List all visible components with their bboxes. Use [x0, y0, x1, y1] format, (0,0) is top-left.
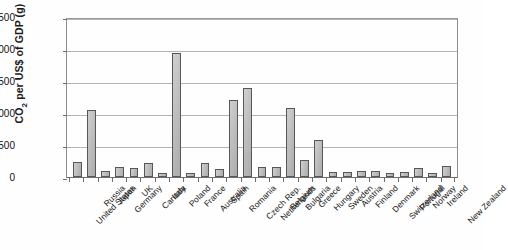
bar [101, 171, 110, 177]
bar-slot [70, 19, 84, 177]
bar [314, 140, 323, 177]
bar-slot [255, 19, 269, 177]
bar-slot [440, 19, 454, 177]
bar-slot [283, 19, 297, 177]
bar [400, 172, 409, 177]
bar-slot [141, 19, 155, 177]
bar-slot [184, 19, 198, 177]
bar-slot [241, 19, 255, 177]
bar-slot [354, 19, 368, 177]
bar-slot [326, 19, 340, 177]
y-axis-title-pre: CO [13, 107, 25, 123]
bar-slot [383, 19, 397, 177]
bar [286, 108, 295, 177]
bar [371, 171, 380, 177]
y-axis-tick-label: 1000 [0, 108, 15, 119]
y-axis-tick-label: 2500 [0, 12, 15, 23]
bar [130, 168, 139, 177]
bar [386, 173, 395, 177]
bar-slot [127, 19, 141, 177]
bar-slot [425, 19, 439, 177]
bar-slot [155, 19, 169, 177]
y-axis-title-post: per US$ of GDP (g) [13, 4, 25, 103]
y-axis-tick-mark [63, 51, 67, 52]
bar [201, 163, 210, 177]
bar-slot [397, 19, 411, 177]
bar [172, 53, 181, 177]
y-axis-tick-mark [63, 115, 67, 116]
y-axis-tick-label: 1500 [0, 76, 15, 87]
bar [186, 173, 195, 177]
bar-slot [340, 19, 354, 177]
bar-slot [198, 19, 212, 177]
bar-slot [312, 19, 326, 177]
bar [258, 167, 267, 177]
bars-container [67, 19, 457, 177]
plot-area [66, 18, 458, 178]
bar-slot [298, 19, 312, 177]
bar-slot [212, 19, 226, 177]
bar [87, 110, 96, 177]
bar [343, 172, 352, 177]
bar-slot [170, 19, 184, 177]
bar [144, 163, 153, 177]
y-axis-tick-label: 500 [0, 140, 15, 151]
bar-slot [113, 19, 127, 177]
bar [215, 169, 224, 177]
bar [357, 171, 366, 177]
bar [329, 172, 338, 177]
bar-slot [226, 19, 240, 177]
bar [414, 168, 423, 177]
bar [272, 167, 281, 177]
x-axis-category-label: Spain [229, 183, 251, 205]
bar [229, 100, 238, 177]
y-axis-title: CO2 per US$ of GDP (g) [13, 0, 28, 139]
bar [115, 167, 124, 177]
bar [243, 88, 252, 177]
y-axis-tick-mark [63, 19, 67, 20]
bar-slot [98, 19, 112, 177]
bar-slot [84, 19, 98, 177]
y-axis-tick-mark [63, 83, 67, 84]
bar [158, 173, 167, 177]
y-axis-title-subscript: 2 [20, 103, 29, 108]
bar [300, 160, 309, 177]
bar [73, 162, 82, 177]
bar [428, 173, 437, 177]
y-axis-tick-label: 0 [0, 172, 15, 183]
bar-slot [369, 19, 383, 177]
x-axis-category-labels: United StatesRussiaJapanGermanyUKCanadaI… [66, 183, 458, 249]
y-axis-tick-label: 2000 [0, 44, 15, 55]
bar-slot [269, 19, 283, 177]
y-axis-tick-mark [63, 147, 67, 148]
bar-slot [411, 19, 425, 177]
x-axis-category-label: New Zealand [466, 183, 508, 225]
bar [442, 166, 451, 177]
